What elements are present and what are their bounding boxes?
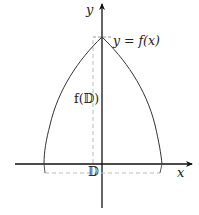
image-label: f(𝔻) [74,93,99,106]
domain-left-connector [44,164,45,173]
y-axis-label: y [86,3,93,16]
domain-right-connector [160,164,162,173]
curve-right-branch [102,37,162,164]
domain-label: 𝔻 [88,166,99,179]
function-diagram [0,0,199,215]
x-axis-label: x [177,166,184,179]
curve-label: y = f(x) [113,35,160,48]
